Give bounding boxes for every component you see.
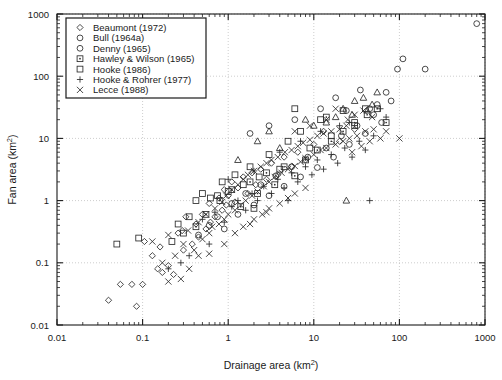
marker-square <box>266 152 272 158</box>
marker-circle <box>314 165 320 171</box>
marker-circle <box>388 98 394 104</box>
series-5 <box>165 106 389 272</box>
marker-diamond <box>141 238 147 244</box>
marker-square-dot-center <box>283 166 285 168</box>
legend-item-label: Hooke & Rohrer (1977) <box>93 74 191 85</box>
marker-diamond <box>170 271 176 277</box>
marker-diamond <box>183 214 189 220</box>
marker-square-dot-center <box>316 149 318 151</box>
marker-square-dot-center <box>330 140 332 142</box>
x-axis-title-exponent: 2 <box>311 358 315 367</box>
marker-square <box>292 106 298 112</box>
marker-circle <box>247 131 253 137</box>
legend-item-label: Bull (1964a) <box>93 32 144 43</box>
marker-square-dot-center <box>195 226 197 228</box>
marker-square-dot-center <box>294 175 296 177</box>
marker-diamond <box>157 244 163 250</box>
y-tick-label: 100 <box>33 71 49 82</box>
marker-diamond <box>223 202 229 208</box>
marker-square <box>318 117 324 123</box>
marker-square <box>175 221 181 227</box>
x-tick-label: 100 <box>391 332 407 343</box>
marker-square <box>219 179 225 185</box>
marker-square-dot-center <box>266 172 268 174</box>
marker-square-dot-center <box>249 181 251 183</box>
legend-item-label: Beaumont (1972) <box>93 22 166 33</box>
marker-square <box>232 172 238 178</box>
marker-square-dot-center <box>79 58 81 60</box>
marker-diamond <box>221 187 227 193</box>
marker-diamond <box>149 253 155 259</box>
x-tick-label: 0.01 <box>48 332 67 343</box>
y-axis-title-exponent: 2 <box>5 138 14 142</box>
marker-circle <box>400 56 406 62</box>
marker-triangle <box>351 98 358 104</box>
marker-square <box>114 241 120 247</box>
marker-diamond <box>268 160 274 166</box>
marker-square <box>251 205 257 211</box>
marker-square <box>136 235 142 241</box>
marker-triangle <box>235 157 242 163</box>
marker-diamond <box>155 266 161 272</box>
marker-circle <box>298 174 304 180</box>
marker-triangle <box>374 89 381 95</box>
marker-square-dot-center <box>385 122 387 124</box>
legend: Beaumont (1972)Bull (1964a)Denny (1965)H… <box>66 18 206 98</box>
marker-circle <box>346 142 352 148</box>
marker-diamond <box>129 281 135 287</box>
marker-square <box>256 174 262 180</box>
legend-item-label: Hooke (1986) <box>93 64 151 75</box>
marker-square <box>240 182 246 188</box>
series-0 <box>105 126 357 309</box>
legend-item[interactable]: Hawley & Wilson (1965) <box>77 53 194 64</box>
marker-circle <box>318 106 324 112</box>
marker-circle <box>395 66 401 72</box>
marker-square-dot-center <box>366 114 368 116</box>
y-tick-label: 0.01 <box>31 320 50 331</box>
marker-circle <box>333 95 339 101</box>
y-tick-label: 0.1 <box>36 257 49 268</box>
marker-circle <box>474 21 480 27</box>
marker-circle <box>383 89 389 95</box>
legend-item-label: Hawley & Wilson (1965) <box>93 53 194 64</box>
marker-triangle <box>343 197 350 203</box>
marker-square <box>208 195 214 201</box>
marker-square-dot-center <box>257 193 259 195</box>
y-axis-title: Fan area (km2) <box>5 134 19 204</box>
marker-square-dot-center <box>325 116 327 118</box>
marker-diamond <box>105 297 111 303</box>
legend-item-label: Denny (1965) <box>93 43 151 54</box>
y-tick-label: 10 <box>38 133 49 144</box>
marker-diamond <box>189 241 195 247</box>
marker-square <box>298 128 304 134</box>
marker-square <box>200 191 206 197</box>
marker-diamond <box>133 303 139 309</box>
marker-triangle <box>302 116 309 122</box>
legend-item[interactable]: Hooke & Rohrer (1977) <box>77 74 191 85</box>
marker-diamond <box>203 226 209 232</box>
marker-circle <box>235 211 241 217</box>
x-axis-title: Drainage area (km2) <box>224 358 319 372</box>
marker-circle <box>292 117 298 123</box>
x-tick-label: 0.1 <box>136 332 149 343</box>
x-tick-label: 1000 <box>474 332 495 343</box>
marker-circle <box>243 191 249 197</box>
marker-diamond <box>219 207 225 213</box>
marker-square <box>285 138 291 144</box>
marker-triangle <box>332 114 339 120</box>
figure-container: 0.010.111010010000.010.11101001000Draina… <box>0 0 502 380</box>
x-tick-label: 1 <box>226 332 231 343</box>
y-tick-label: 1000 <box>28 9 49 20</box>
marker-diamond <box>295 149 301 155</box>
marker-square-dot-center <box>274 184 276 186</box>
marker-circle <box>251 202 257 208</box>
marker-circle <box>357 87 363 93</box>
marker-diamond <box>159 269 165 275</box>
x-tick-label: 10 <box>309 332 320 343</box>
scatter-plot: 0.010.111010010000.010.11101001000Draina… <box>0 0 502 380</box>
legend-item-label: Lecce (1988) <box>93 84 148 95</box>
marker-diamond <box>180 247 186 253</box>
y-tick-label: 1 <box>44 195 49 206</box>
marker-circle <box>422 66 428 72</box>
series-6 <box>149 106 402 285</box>
